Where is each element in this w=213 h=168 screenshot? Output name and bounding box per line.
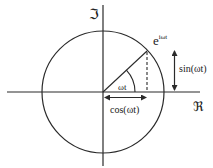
angle-arc: [126, 70, 135, 92]
angle-label: ωt: [118, 82, 127, 92]
unit-circle-diagram: ℑ ℜ eiωt ωt sin(ωt) cos(ωt): [0, 0, 213, 168]
cosine-label: cos(ωt): [110, 104, 139, 116]
phasor-label: eiωt: [153, 33, 167, 48]
real-axis-label: ℜ: [193, 99, 204, 114]
phasor-exponent: iωt: [159, 33, 168, 41]
sine-label: sin(ωt): [179, 63, 207, 75]
imaginary-axis-label: ℑ: [89, 7, 99, 22]
